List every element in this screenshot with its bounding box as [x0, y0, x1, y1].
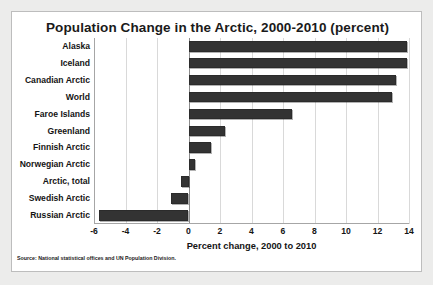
x-axis-title: Percent change, 2000 to 2010 — [94, 241, 409, 251]
chart-page: Population Change in the Arctic, 2000-20… — [0, 0, 433, 285]
x-axis-tick-labels: -6-4-202468101214 — [94, 226, 409, 240]
x-tick-label: 4 — [239, 226, 265, 236]
category-label: Alaska — [12, 41, 90, 51]
x-tick-label: 8 — [302, 226, 328, 236]
chart-title: Population Change in the Arctic, 2000-20… — [12, 20, 423, 35]
plot-frame — [94, 38, 409, 224]
category-label: Faroe Islands — [12, 109, 90, 119]
category-label: Greenland — [12, 126, 90, 136]
category-label: Norwegian Arctic — [12, 159, 90, 169]
category-axis-labels: AlaskaIcelandCanadian ArcticWorldFaroe I… — [12, 38, 90, 224]
x-tick-label: 14 — [396, 226, 422, 236]
gridline-14 — [409, 38, 410, 224]
category-label: World — [12, 92, 90, 102]
x-tick-label: -6 — [81, 226, 107, 236]
category-label: Finnish Arctic — [12, 142, 90, 152]
x-tick-label: -4 — [113, 226, 139, 236]
chart-card: Population Change in the Arctic, 2000-20… — [11, 11, 422, 272]
category-label: Iceland — [12, 58, 90, 68]
category-label: Russian Arctic — [12, 210, 90, 220]
category-label: Swedish Arctic — [12, 193, 90, 203]
plot-area — [94, 38, 409, 224]
category-label: Canadian Arctic — [12, 75, 90, 85]
x-tick-label: 2 — [207, 226, 233, 236]
source-note: Source: National statistical offices and… — [17, 255, 176, 261]
x-tick-label: 6 — [270, 226, 296, 236]
x-tick-label: 10 — [333, 226, 359, 236]
x-tick-label: -2 — [144, 226, 170, 236]
x-tick-label: 12 — [365, 226, 391, 236]
x-tick-label: 0 — [176, 226, 202, 236]
category-label: Arctic, total — [12, 176, 90, 186]
